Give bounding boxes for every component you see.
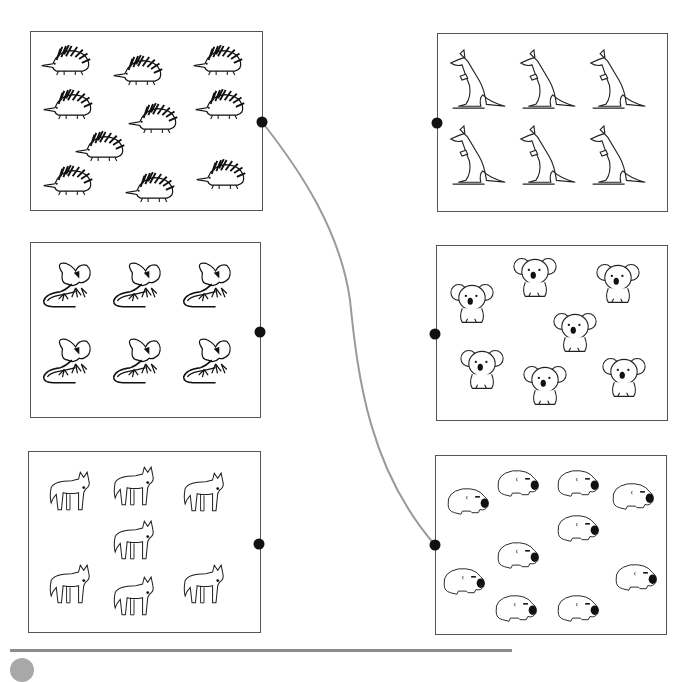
- echidna-icon: [125, 98, 181, 138]
- kangaroo-icon: [445, 124, 511, 186]
- dingo-icon: [44, 467, 96, 515]
- wombat-icon: [613, 559, 659, 593]
- dingo-icon: [108, 572, 160, 620]
- koala-icon: [523, 360, 567, 410]
- connection-echidnas-wombats: [262, 122, 435, 545]
- wombat-icon: [441, 563, 487, 597]
- dot-echidnas[interactable]: [257, 117, 268, 128]
- kangaroo-icon: [585, 124, 651, 186]
- dingo-icon: [178, 560, 230, 608]
- lizard-icon: [38, 258, 100, 314]
- kangaroo-icon: [515, 48, 581, 110]
- dot-lizards[interactable]: [255, 327, 266, 338]
- kangaroo-icon: [515, 124, 581, 186]
- wombat-icon: [555, 590, 601, 624]
- wombat-icon: [555, 465, 601, 499]
- wombat-icon: [495, 537, 541, 571]
- footer-rule: [10, 649, 512, 652]
- echidna-icon: [40, 160, 96, 200]
- echidna-icon: [193, 154, 249, 194]
- koala-icon: [596, 258, 640, 308]
- dot-dingoes[interactable]: [254, 539, 265, 550]
- wombat-icon: [495, 465, 541, 499]
- footer-circle: [10, 658, 34, 682]
- dot-wombats[interactable]: [430, 540, 441, 551]
- echidna-icon: [110, 50, 166, 90]
- dot-kangaroos[interactable]: [432, 118, 443, 129]
- koala-icon: [553, 307, 597, 357]
- echidna-icon: [38, 40, 94, 80]
- dot-koalas[interactable]: [430, 329, 441, 340]
- echidna-icon: [122, 167, 178, 207]
- echidna-icon: [190, 40, 246, 80]
- wombat-icon: [493, 590, 539, 624]
- echidna-icon: [192, 84, 248, 124]
- lizard-icon: [108, 258, 170, 314]
- lizard-icon: [178, 258, 240, 314]
- wombat-icon: [555, 510, 601, 544]
- wombat-icon: [610, 478, 656, 512]
- lizard-icon: [108, 334, 170, 390]
- koala-icon: [513, 252, 557, 302]
- kangaroo-icon: [585, 48, 651, 110]
- wombat-icon: [445, 483, 491, 517]
- dingo-icon: [44, 560, 96, 608]
- koala-icon: [460, 344, 504, 394]
- dingo-icon: [108, 462, 160, 510]
- dingo-icon: [178, 468, 230, 516]
- kangaroo-icon: [445, 48, 511, 110]
- koala-icon: [602, 352, 646, 402]
- lizard-icon: [178, 334, 240, 390]
- lizard-icon: [38, 334, 100, 390]
- dingo-icon: [108, 516, 160, 564]
- echidna-icon: [40, 84, 96, 124]
- koala-icon: [450, 278, 494, 328]
